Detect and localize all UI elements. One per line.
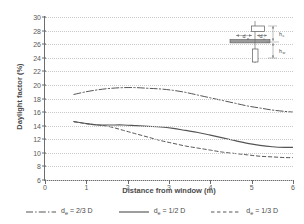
y-tick-label: 18: [33, 95, 41, 102]
legend-item-1[interactable]: de = 2/3 D: [26, 207, 93, 216]
y-tick-mark: [42, 57, 46, 58]
y-tick-mark: [42, 139, 46, 140]
gridline: [45, 126, 293, 127]
y-tick-label: 22: [33, 68, 41, 75]
svg-text:e: e: [247, 37, 249, 41]
y-tick-label: 24: [33, 54, 41, 61]
legend-label-1: de = 2/3 D: [61, 207, 93, 216]
series-line-1: [74, 88, 293, 113]
gridline: [45, 153, 293, 154]
y-tick-label: 26: [33, 41, 41, 48]
gridline: [45, 71, 293, 72]
y-tick-label: 30: [33, 14, 41, 21]
svg-text:w: w: [282, 51, 285, 55]
gridline: [45, 99, 293, 100]
y-tick-label: 16: [33, 109, 41, 116]
y-tick-label: 8: [37, 163, 41, 170]
svg-text:d: d: [243, 33, 246, 39]
legend-item-2[interactable]: de = 1/2 D: [119, 207, 186, 216]
y-tick-label: 10: [33, 149, 41, 156]
legend-item-3[interactable]: de = 1/3 D: [211, 207, 278, 216]
x-tick-label: 2: [126, 184, 130, 191]
gridline: [45, 166, 293, 167]
chart-legend: de = 2/3 Dde = 1/2 Dde = 1/3 D: [0, 202, 304, 222]
svg-text:c: c: [282, 34, 284, 38]
y-tick-label: 6: [37, 177, 41, 184]
x-tick-label: 6: [291, 184, 295, 191]
gridline: [45, 112, 293, 113]
legend-swatch-solid: [119, 208, 149, 216]
y-tick-label: 28: [33, 27, 41, 34]
y-tick-mark: [42, 84, 46, 85]
y-tick-mark: [42, 71, 46, 72]
svg-text:i: i: [264, 37, 265, 41]
y-tick-mark: [42, 30, 46, 31]
x-tick-label: 4: [208, 184, 212, 191]
y-tick-mark: [42, 17, 46, 18]
legend-swatch-dash-dot: [26, 208, 56, 216]
legend-label-3: de = 1/3 D: [246, 207, 278, 216]
x-tick-label: 0: [43, 184, 47, 191]
x-tick-label: 1: [84, 184, 88, 191]
x-tick-label: 5: [250, 184, 254, 191]
chart-figure: Daylight factor (%) Distance from window…: [0, 0, 304, 224]
y-tick-label: 20: [33, 81, 41, 88]
window-section-diagram: d e d i h c h w: [222, 14, 294, 70]
gridline: [45, 85, 293, 86]
x-tick-label: 3: [167, 184, 171, 191]
y-axis-title: Daylight factor (%): [15, 32, 24, 162]
y-tick-mark: [42, 125, 46, 126]
y-tick-mark: [42, 98, 46, 99]
y-tick-mark: [42, 166, 46, 167]
svg-text:d: d: [260, 33, 263, 39]
y-tick-label: 14: [33, 122, 41, 129]
gridline: [45, 139, 293, 140]
y-tick-mark: [42, 152, 46, 153]
y-tick-label: 12: [33, 136, 41, 143]
legend-swatch-dashed: [211, 208, 241, 216]
legend-label-2: de = 1/2 D: [154, 207, 186, 216]
y-tick-mark: [42, 112, 46, 113]
y-tick-mark: [42, 44, 46, 45]
